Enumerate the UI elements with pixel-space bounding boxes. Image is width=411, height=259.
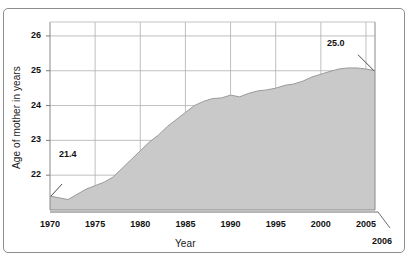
y-axis-title: Age of mother in years xyxy=(11,53,22,183)
x-tick-label: 1970 xyxy=(33,219,67,229)
x-tick-label: 1980 xyxy=(123,219,157,229)
chart-figure: 22 23 24 25 26 1970 1975 1980 1985 1990 … xyxy=(0,0,411,259)
x-tick-label: 1985 xyxy=(168,219,202,229)
x-tick-label: 1995 xyxy=(259,219,293,229)
y-tick-label: 25 xyxy=(21,65,41,75)
x-axis-title: Year xyxy=(175,238,196,249)
x-tick-label: 1990 xyxy=(214,219,248,229)
y-tick-label: 24 xyxy=(21,100,41,110)
y-tick-label: 23 xyxy=(21,134,41,144)
data-label-end: 25.0 xyxy=(327,38,345,48)
x-tick-label: 1975 xyxy=(78,219,112,229)
y-tick-label: 22 xyxy=(21,169,41,179)
x-tick-label: 2005 xyxy=(349,219,383,229)
y-tick-label: 26 xyxy=(21,30,41,40)
data-label-start: 21.4 xyxy=(59,149,77,159)
x-tick-label: 2000 xyxy=(304,219,338,229)
x-tick-label-2006: 2006 xyxy=(372,236,392,246)
y-axis-tick-marks xyxy=(46,36,50,175)
